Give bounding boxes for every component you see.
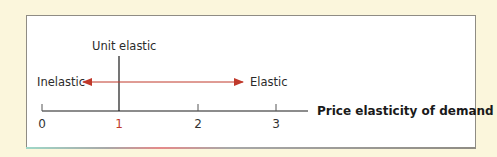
- tick-label-3: 3: [272, 117, 280, 131]
- axis-title: Price elasticity of demand: [317, 104, 494, 118]
- tick-label-0: 0: [38, 117, 46, 131]
- unit-elastic-label: Unit elastic: [92, 39, 156, 53]
- elasticity-diagram: Unit elastic Inelastic Elastic 0 1 2 3 P…: [0, 0, 497, 157]
- tick-label-2: 2: [194, 117, 202, 131]
- tick-label-1: 1: [115, 117, 123, 131]
- inelastic-label: Inelastic: [37, 75, 85, 89]
- elastic-label: Elastic: [250, 75, 288, 89]
